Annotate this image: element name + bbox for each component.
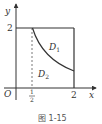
y-tick-2: 2 xyxy=(7,23,13,33)
x-tick-half-denominator: 2 xyxy=(30,96,34,103)
region-d1-label: D1 xyxy=(48,42,60,53)
y-axis-label: y xyxy=(4,6,11,16)
x-axis-label: x xyxy=(89,90,94,100)
x-tick-half-numerator: 1 xyxy=(30,88,34,95)
region-d2-label: D2 xyxy=(37,69,49,80)
figure-caption: 图 1-15 xyxy=(38,114,67,123)
x-tick-2: 2 xyxy=(71,90,77,100)
region-diagram: y 2 O 1 2 2 x D1 D2 图 1-15 xyxy=(0,0,102,124)
origin-label: O xyxy=(4,89,12,99)
